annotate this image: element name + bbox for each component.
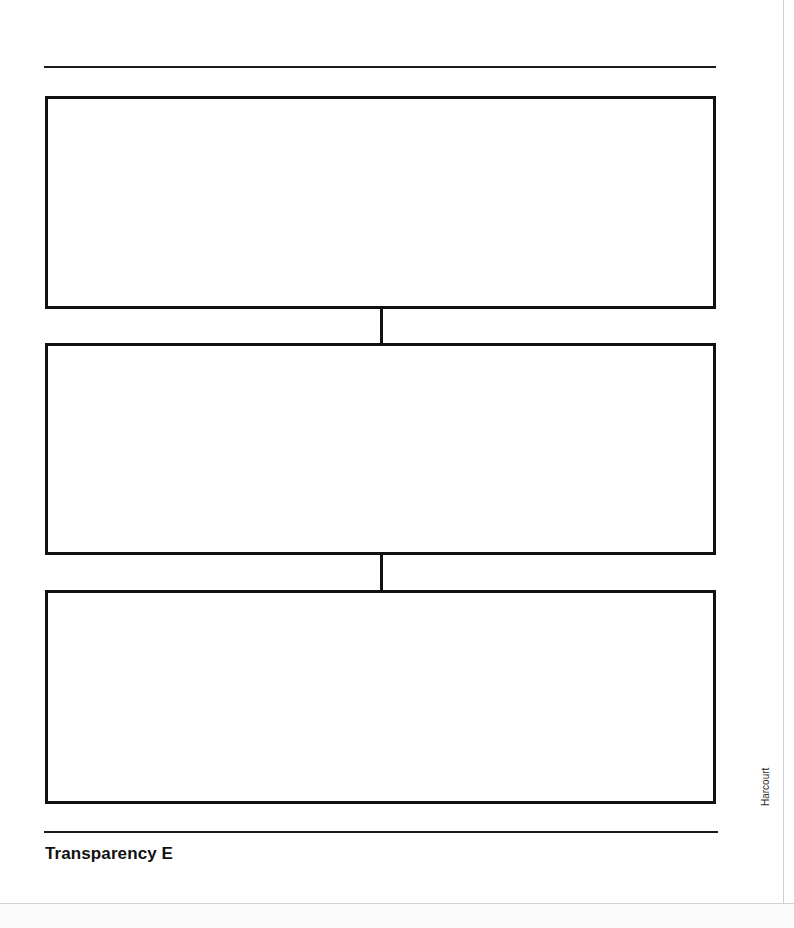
header-rule [44, 66, 716, 68]
connector-box1-to-box2 [380, 308, 383, 344]
page-edge-right [783, 0, 784, 904]
publisher-credit: Harcourt [760, 786, 780, 856]
organizer-box-2[interactable] [45, 343, 716, 555]
organizer-box-3-text[interactable] [48, 593, 713, 617]
worksheet-page: Transparency E Harcourt [0, 0, 794, 928]
page-margin-below [0, 904, 794, 928]
organizer-box-2-text[interactable] [48, 346, 713, 370]
footer-rule [44, 831, 718, 833]
organizer-box-3[interactable] [45, 590, 716, 804]
organizer-box-1[interactable] [45, 96, 716, 309]
page-title: Transparency E [45, 844, 173, 864]
publisher-credit-label: Harcourt [760, 736, 780, 806]
organizer-box-1-text[interactable] [48, 99, 713, 123]
connector-box2-to-box3 [380, 554, 383, 591]
